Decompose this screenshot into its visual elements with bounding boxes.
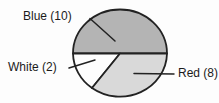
leader-line-red bbox=[134, 74, 174, 75]
pie-chart-figure: Blue (10) White (2) Red (8) bbox=[0, 0, 219, 103]
slice-label-red: Red (8) bbox=[178, 67, 218, 80]
slice-label-white: White (2) bbox=[8, 61, 57, 74]
slice-label-blue: Blue (10) bbox=[23, 10, 72, 23]
pie-slice-blue bbox=[73, 10, 167, 54]
